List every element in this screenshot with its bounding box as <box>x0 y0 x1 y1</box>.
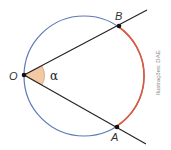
label-b: B <box>115 10 122 22</box>
angle-alpha-wedge <box>24 66 44 85</box>
arc-ab <box>117 27 144 126</box>
line-oa <box>24 75 146 144</box>
point-b <box>117 24 122 29</box>
inscribed-angle-diagram: O B A α Ilustrações: DAE <box>0 0 171 150</box>
point-o <box>22 73 27 78</box>
line-ob <box>24 10 147 75</box>
label-a: A <box>110 131 118 143</box>
label-o: O <box>9 70 18 82</box>
label-alpha: α <box>50 69 58 83</box>
point-a <box>115 125 120 130</box>
credit-text: Ilustrações: DAE <box>155 50 161 95</box>
